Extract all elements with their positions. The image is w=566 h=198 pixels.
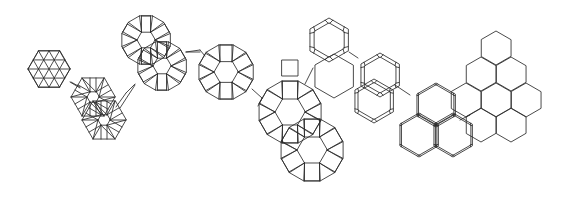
hexagonal-tiling bbox=[451, 31, 540, 142]
dodecagon-rosette-mid bbox=[138, 42, 186, 90]
dodecagon-large-1 bbox=[259, 81, 321, 143]
dodecagon-rosette-top bbox=[122, 16, 170, 64]
dodecagon-rosette-center bbox=[199, 45, 253, 99]
double-hex-2 bbox=[400, 113, 438, 157]
truncated-hex-top bbox=[310, 18, 348, 62]
tiling-lines bbox=[28, 16, 541, 181]
dodecagon-large-2 bbox=[281, 119, 343, 181]
double-hex-1 bbox=[417, 83, 455, 127]
plain-hex-link-1 bbox=[315, 54, 353, 98]
triangular-tiling-patch bbox=[28, 51, 70, 87]
tiling-diagram bbox=[0, 0, 566, 198]
square-link bbox=[282, 60, 298, 76]
connector-strip-2 bbox=[120, 85, 135, 108]
tiling-sequence-figure bbox=[0, 0, 566, 198]
